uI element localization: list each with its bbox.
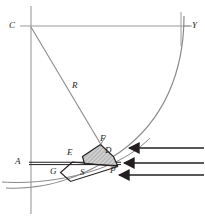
label-point-p: P (110, 166, 116, 175)
shaded-element-region (83, 145, 118, 166)
label-point-s: S (80, 168, 85, 177)
diagram-svg (0, 0, 205, 220)
label-point-g: G (50, 167, 57, 176)
label-radius-r: R (72, 81, 78, 90)
diagram-canvas: C Y R E F D A G S P (0, 0, 205, 220)
label-center-c: C (9, 21, 15, 30)
label-point-e: E (67, 148, 73, 157)
label-point-d: D (105, 146, 112, 155)
label-axis-y: Y (192, 21, 197, 30)
label-point-f: F (100, 134, 106, 143)
radius-line (31, 27, 103, 148)
label-point-a: A (15, 157, 21, 166)
